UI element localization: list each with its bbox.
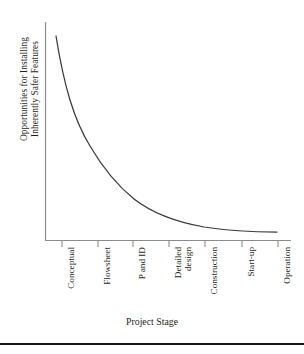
x-tick-label-text: Operation (282, 247, 292, 284)
x-axis-title: Project Stage (0, 316, 304, 327)
x-tick-label-text: Start-up (246, 247, 256, 277)
x-tick-label-start-up: Start-up (246, 247, 256, 317)
x-tick-label-flowsheet: Flowsheet (102, 247, 112, 317)
x-tick-label-text: Flowsheet (102, 247, 112, 285)
x-tick-label-text: P and ID (137, 247, 147, 279)
x-tick-label-construction: Construction (209, 247, 219, 317)
x-tick-label-text: Detailed (173, 247, 183, 278)
chart-figure: Opportunities for Installing Inherently … (0, 0, 304, 354)
x-tick-label-text: Conceptual (66, 247, 76, 289)
x-tick-label-conceptual: Conceptual (66, 247, 76, 317)
x-tick-label-text-line-2: design (183, 247, 193, 317)
bottom-rule (0, 343, 304, 345)
plot-area (0, 0, 304, 354)
x-tick-label-operation: Operation (282, 247, 292, 317)
x-tick-label-detailed-design: Detailed design (173, 247, 194, 317)
x-tick-label-text: Construction (209, 247, 219, 294)
decay-curve (56, 36, 277, 232)
x-tick-label-p-and-id: P and ID (137, 247, 147, 317)
